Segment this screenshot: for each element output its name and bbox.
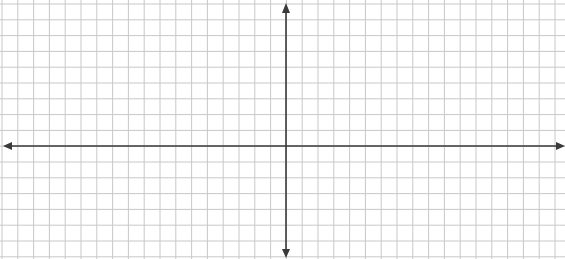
x-axis-right-arrow-icon [556, 142, 565, 150]
coordinate-plane [0, 0, 565, 259]
x-axis-left-arrow-icon [3, 142, 12, 150]
coordinate-grid-svg [0, 0, 565, 259]
grid-lines [0, 0, 565, 259]
